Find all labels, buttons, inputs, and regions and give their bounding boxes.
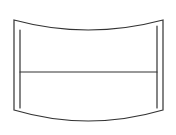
panel-diagram (0, 0, 176, 135)
panel-outline (14, 20, 163, 121)
